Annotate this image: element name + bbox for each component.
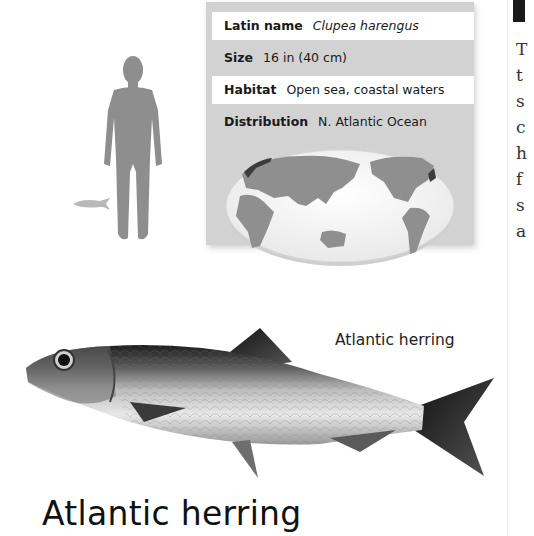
world-map-icon <box>222 144 458 268</box>
fact-file-panel: Latin name Clupea harengus Size 16 in (4… <box>206 2 474 245</box>
fact-label: Latin name <box>224 18 303 33</box>
body-text-line: a <box>516 218 526 244</box>
section-heading-fragment <box>513 0 525 22</box>
illustration-caption: Atlantic herring <box>335 331 455 349</box>
fact-row-size: Size 16 in (40 cm) <box>212 44 474 72</box>
body-text-line: T <box>516 36 527 62</box>
fact-label: Habitat <box>224 82 277 97</box>
fact-row-habitat: Habitat Open sea, coastal waters <box>212 76 474 104</box>
body-text-line: f <box>516 166 522 192</box>
herring-illustration-icon <box>20 326 498 488</box>
fact-label: Distribution <box>224 114 308 129</box>
fact-value: Open sea, coastal waters <box>287 82 445 97</box>
fact-row-latin-name: Latin name Clupea harengus <box>212 12 474 40</box>
body-text-line: s <box>516 192 525 218</box>
fact-value: 16 in (40 cm) <box>263 50 347 65</box>
fact-row-distribution: Distribution N. Atlantic Ocean <box>212 108 474 136</box>
fish-silhouette-icon <box>72 197 112 211</box>
page-title: Atlantic herring <box>42 494 302 533</box>
body-text-line: s <box>516 88 525 114</box>
fact-value: Clupea harengus <box>313 18 419 33</box>
body-text-line: t <box>516 62 523 88</box>
human-silhouette-icon <box>100 52 166 244</box>
fact-value: N. Atlantic Ocean <box>318 114 427 129</box>
body-text-line: h <box>516 140 527 166</box>
page-gutter-divider <box>507 0 508 536</box>
fact-label: Size <box>224 50 253 65</box>
body-text-line: c <box>516 114 526 140</box>
